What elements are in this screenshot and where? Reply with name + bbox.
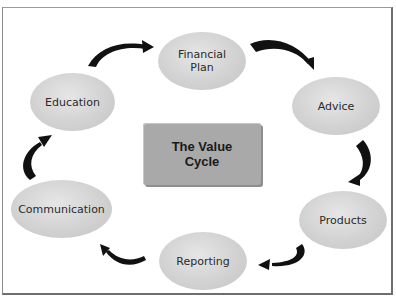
node-label: Reporting xyxy=(176,255,229,268)
center-title-line2: Cycle xyxy=(172,154,233,169)
arrow-education-to-plan-icon xyxy=(88,40,154,67)
node-label: Communication xyxy=(18,203,105,216)
center-title-line1: The Value xyxy=(172,139,233,154)
arrow-reporting-to-communication-icon xyxy=(100,244,146,265)
node-education: Education xyxy=(30,73,115,131)
node-label: Advice xyxy=(318,100,355,113)
node-label: Education xyxy=(45,96,100,109)
node-advice: Advice xyxy=(292,77,380,135)
node-label: Financial xyxy=(178,48,226,61)
arrow-advice-to-products-icon xyxy=(348,140,371,186)
node-label: Products xyxy=(319,214,367,227)
node-label: Plan xyxy=(178,61,226,74)
node-financial-plan: Financial Plan xyxy=(158,32,246,90)
node-communication: Communication xyxy=(11,180,112,238)
node-products: Products xyxy=(299,191,387,249)
arrow-products-to-reporting-icon xyxy=(258,244,305,270)
arrow-communication-to-education-icon xyxy=(23,135,52,180)
arrow-plan-to-advice-icon xyxy=(250,40,314,70)
node-reporting: Reporting xyxy=(159,232,247,290)
center-title-box: The Value Cycle xyxy=(143,123,261,185)
